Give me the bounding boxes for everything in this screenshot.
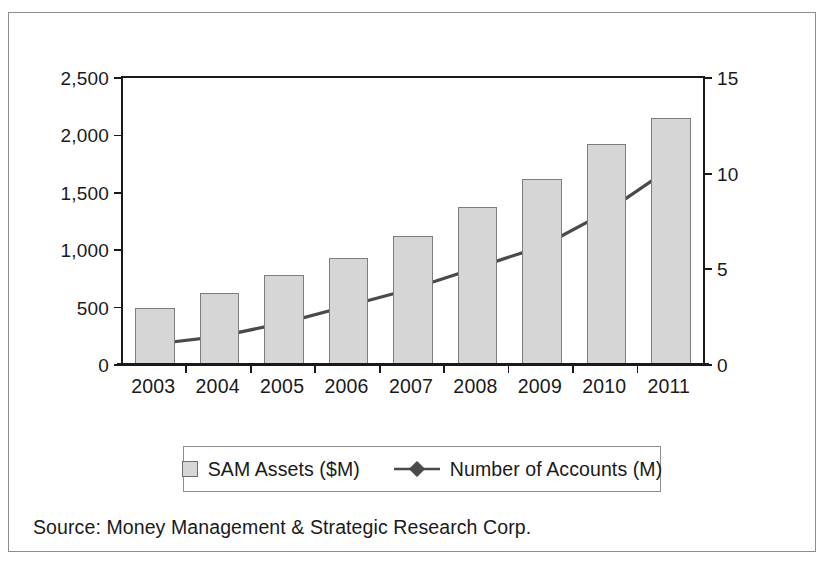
y-axis-tick-label: 1,000 [60,241,109,260]
x-axis-tick-label: 2010 [572,377,636,397]
diamond-marker-icon [394,460,440,478]
x-axis-tick [185,363,187,373]
y-axis-tick [114,192,123,194]
y2-axis-tick [703,268,712,270]
x-axis-tick [508,363,510,373]
source-note: Source: Money Management & Strategic Res… [33,516,531,539]
bar-2006 [329,258,369,365]
x-axis-tick-label: 2011 [637,377,701,397]
x-axis-tick [443,363,445,373]
bar-2009 [522,179,562,365]
x-axis-tick [379,363,381,373]
y2-axis-tick-label: 0 [717,356,728,375]
legend-square-swatch-icon [182,461,198,477]
x-axis-tick-label: 2007 [379,377,443,397]
chart-legend: SAM Assets ($M) Number of Accounts (M) [183,446,661,492]
legend-item-number-of-accounts: Number of Accounts (M) [394,458,662,481]
bar-2008 [458,207,498,365]
legend-diamond-line-icon [394,460,440,478]
y2-axis-tick-label: 15 [717,69,739,88]
bar-2007 [393,236,433,365]
bar-2003 [135,308,175,365]
y-axis-tick [114,77,123,79]
x-axis-tick [637,363,639,373]
legend-item-sam-assets: SAM Assets ($M) [182,458,360,481]
chart-plot-area: 05001,0001,5002,0002,500051015 [121,76,705,365]
y2-axis-tick-label: 5 [717,260,728,279]
bar-2011 [651,118,691,365]
x-axis-tick-label: 2003 [121,377,185,397]
scan-edge-artifact-text: —————————————————— [28,0,303,6]
y2-axis-tick [703,173,712,175]
scan-edge-artifact: —————————————————— [0,0,832,9]
legend-item-label: Number of Accounts (M) [450,458,662,481]
x-axis-line [117,363,709,366]
y-axis-tick-label: 2,500 [60,69,109,88]
x-axis-tick-label: 2005 [250,377,314,397]
chart-plot-wrapper: 05001,0001,5002,0002,500051015 200320042… [9,13,817,413]
x-axis-tick-label: 2004 [185,377,249,397]
y-axis-tick-label: 1,500 [60,184,109,203]
y-axis-tick-label: 0 [98,356,109,375]
y-axis-tick-label: 500 [77,299,109,318]
figure-frame: 05001,0001,5002,0002,500051015 200320042… [8,12,816,552]
x-axis-tick [314,363,316,373]
bar-2004 [200,293,240,365]
x-axis-tick-label: 2006 [314,377,378,397]
legend-item-label: SAM Assets ($M) [208,458,360,481]
y-axis-tick [114,307,123,309]
y-axis-tick-label: 2,000 [60,126,109,145]
x-axis-tick [250,363,252,373]
y-axis-tick [114,249,123,251]
y2-axis-tick [703,77,712,79]
x-axis-tick-label: 2009 [508,377,572,397]
bar-2005 [264,275,304,365]
y-axis-tick [114,135,123,137]
y2-axis-tick-label: 10 [717,165,739,184]
x-axis-tick-label: 2008 [443,377,507,397]
x-axis-tick [572,363,574,373]
bar-2010 [587,144,627,365]
